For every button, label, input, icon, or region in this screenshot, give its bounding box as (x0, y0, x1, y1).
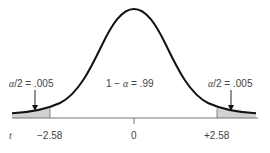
axis-variable-label: t (9, 131, 12, 141)
bell-curve (12, 9, 256, 113)
left-tail-label: α/2 = .005 (9, 79, 53, 89)
right-tail-label: α/2 = .005 (208, 79, 252, 89)
tick-label-pos: +2.58 (204, 131, 229, 141)
tick-label-neg: −2.58 (37, 131, 62, 141)
right-arrow-icon (228, 90, 234, 111)
left-tail-value: /2 = .005 (14, 78, 53, 89)
tick-label-zero: 0 (131, 131, 137, 141)
center-value: = .99 (128, 78, 153, 89)
left-arrow-icon (32, 90, 38, 111)
center-prefix: 1 − (106, 78, 123, 89)
center-label: 1 − α = .99 (106, 79, 154, 89)
right-tail-value: /2 = .005 (213, 78, 252, 89)
